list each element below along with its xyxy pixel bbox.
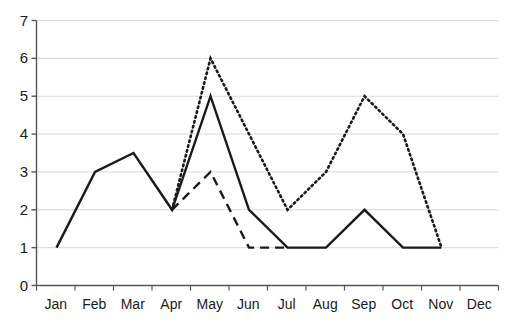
x-axis-tick-label: Dec: [456, 297, 502, 311]
axes: [37, 21, 499, 286]
y-axis-tick-label: 0: [8, 278, 28, 293]
line-chart: 76543210 JanFebMarAprMayJunJulAugSepOctN…: [0, 0, 514, 324]
y-axis-tick-label: 4: [8, 126, 28, 141]
y-axis-tick-label: 3: [8, 164, 28, 179]
y-axis-tick-label: 5: [8, 88, 28, 103]
chart-canvas: [0, 0, 514, 324]
y-axis-tick-label: 7: [8, 13, 28, 28]
series-line-dotted: [172, 58, 442, 247]
y-axis-tick-label: 1: [8, 240, 28, 255]
gridlines: [37, 21, 499, 248]
y-axis-tick-label: 2: [8, 202, 28, 217]
data-series-layer: [57, 58, 442, 247]
y-axis-ticks: [32, 21, 37, 286]
y-axis-tick-label: 6: [8, 50, 28, 65]
x-axis-ticks: [37, 286, 499, 291]
